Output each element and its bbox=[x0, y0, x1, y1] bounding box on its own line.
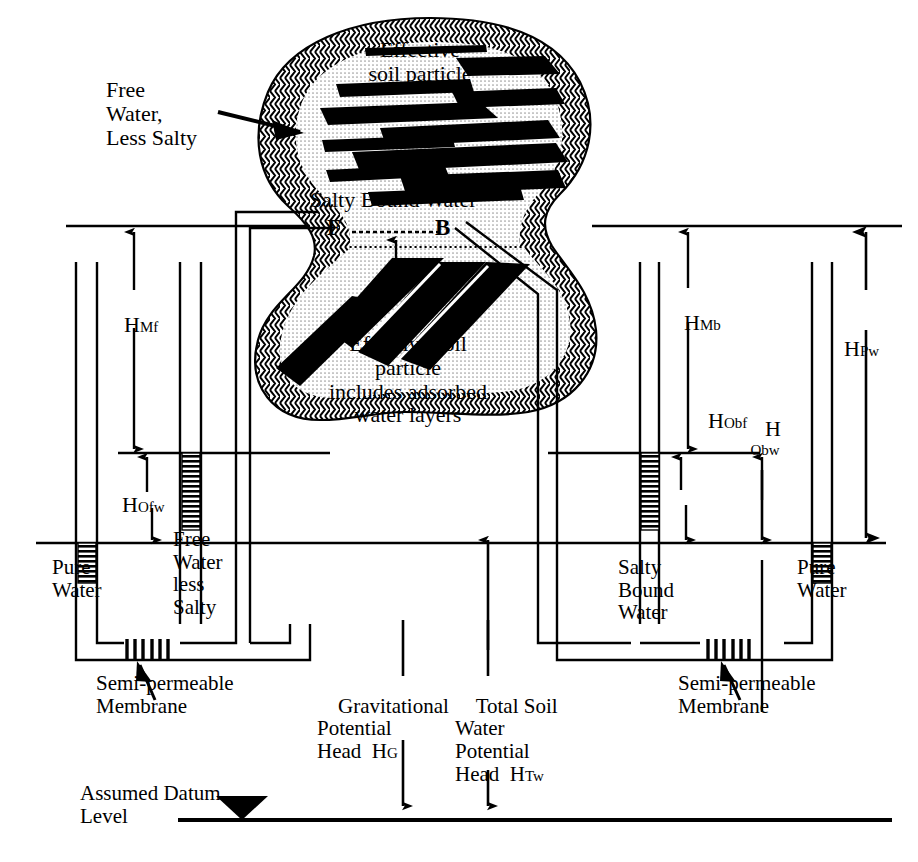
h-ofw-subscript: Ofw bbox=[138, 499, 165, 515]
right-u-tube-inner-a bbox=[538, 624, 631, 643]
free-water-less-salty-label: Free Water, Less Salty bbox=[106, 78, 197, 149]
h-mb-symbol: H bbox=[684, 310, 700, 335]
diagram-canvas: Free Water, Less Salty Effective soil pa… bbox=[0, 0, 918, 862]
h-obf-symbol: H bbox=[708, 408, 724, 433]
gravitational-potential-text: Gravitational Potential Head H bbox=[317, 694, 449, 763]
right-membrane-label: Semi-permeable Membrane bbox=[678, 672, 816, 717]
left-pure-water-label: Pure Water bbox=[52, 556, 102, 601]
assumed-datum-level-label: Assumed Datum Level bbox=[80, 782, 221, 827]
h-mb-label: HMb bbox=[668, 294, 721, 352]
effective-soil-particle-top-label: Effective soil particle bbox=[330, 38, 510, 86]
h-mf-symbol: H bbox=[124, 312, 140, 337]
left-membrane-label: Semi-permeable Membrane bbox=[96, 672, 234, 717]
h-pw-label: HPw bbox=[828, 320, 879, 378]
h-mf-subscript: Mf bbox=[140, 319, 158, 335]
h-obw-symbol: H bbox=[765, 416, 781, 441]
h-mb-subscript: Mb bbox=[700, 317, 721, 333]
datum-triangle-symbol bbox=[216, 796, 268, 820]
right-membrane bbox=[704, 639, 756, 659]
gravitational-potential-label: Gravitational Potential Head HG bbox=[317, 672, 449, 785]
left-membrane bbox=[124, 639, 176, 659]
left-u-tube-inner-right-leg bbox=[250, 624, 290, 643]
h-obf-dimension bbox=[681, 457, 686, 540]
right-pure-water-label: Pure Water bbox=[797, 556, 847, 601]
right-salty-bound-water-label: Salty Bound Water bbox=[618, 556, 674, 624]
h-pw-symbol: H bbox=[844, 336, 860, 361]
h-obw-subscript: Obw bbox=[750, 442, 779, 458]
right-salty-water-column bbox=[641, 453, 659, 530]
total-soil-water-potential-subscript: Tw bbox=[525, 768, 544, 784]
h-ofw-symbol: H bbox=[122, 492, 138, 517]
effective-soil-particle-bottom-label: Effective soil particle includes adsorbe… bbox=[292, 332, 524, 427]
gravitational-potential-subscript: G bbox=[387, 745, 398, 761]
h-ofw-label: HOfw bbox=[106, 476, 165, 534]
left-free-water-less-salty-label: Free Water less Salty bbox=[173, 528, 223, 619]
right-u-tube-inner-c bbox=[784, 624, 812, 643]
point-b-label: B bbox=[435, 216, 450, 241]
salty-bound-water-label: Salty Bound Water bbox=[310, 188, 476, 212]
left-free-water-column bbox=[182, 453, 200, 530]
h-pw-subscript: Pw bbox=[860, 343, 879, 359]
point-f-label: F bbox=[327, 216, 341, 241]
left-u-tube-inner-b bbox=[180, 624, 236, 643]
h-mf-label: HMf bbox=[108, 296, 158, 354]
h-obw-label: HObw bbox=[730, 400, 800, 476]
total-soil-water-potential-label: Total Soil Water Potential Head HTw bbox=[455, 672, 558, 808]
